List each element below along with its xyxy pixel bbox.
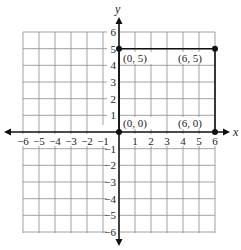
y-tick: 2 bbox=[111, 93, 117, 105]
y-axis-up-arrow-icon bbox=[116, 17, 123, 24]
point-6-5 bbox=[212, 46, 218, 52]
point-label-6-5: (6, 5) bbox=[178, 52, 202, 65]
y-tick: −2 bbox=[104, 159, 116, 171]
y-tick: 3 bbox=[111, 76, 117, 88]
point-label-0-0: (0, 0) bbox=[123, 117, 147, 130]
x-tick: −3 bbox=[65, 135, 77, 147]
y-tick: −3 bbox=[104, 176, 116, 188]
x-tick: −4 bbox=[49, 135, 61, 147]
y-axis-down-arrow-icon bbox=[116, 239, 123, 246]
x-tick: −5 bbox=[33, 135, 45, 147]
y-tick: 1 bbox=[111, 109, 117, 121]
x-axis-label: x bbox=[232, 125, 239, 139]
y-tick: 5 bbox=[111, 43, 117, 55]
point-6-0 bbox=[212, 129, 218, 135]
y-tick: −1 bbox=[104, 143, 116, 155]
y-tick: −5 bbox=[104, 209, 116, 221]
point-label-0-5: (0, 5) bbox=[123, 52, 147, 65]
x-tick: 1 bbox=[132, 135, 138, 147]
point-0-0 bbox=[116, 129, 122, 135]
point-0-5 bbox=[116, 46, 122, 52]
x-tick: 4 bbox=[180, 135, 186, 147]
x-axis-right-arrow-icon bbox=[223, 129, 230, 136]
x-axis-left-arrow-icon bbox=[4, 129, 11, 136]
x-tick: 6 bbox=[212, 135, 218, 147]
y-axis-label: y bbox=[114, 2, 121, 16]
x-tick: 2 bbox=[148, 135, 154, 147]
x-tick: 5 bbox=[196, 135, 202, 147]
coordinate-plane: x y −6 −5 −4 −3 −2 −1 1 2 3 4 5 6 6 5 4 … bbox=[0, 0, 241, 250]
y-tick: 6 bbox=[111, 26, 117, 38]
x-tick: −2 bbox=[81, 135, 93, 147]
x-tick: 3 bbox=[164, 135, 170, 147]
y-tick: −4 bbox=[104, 193, 116, 205]
y-tick: 4 bbox=[111, 59, 117, 71]
point-label-6-0: (6, 0) bbox=[178, 117, 202, 130]
y-tick: −6 bbox=[104, 226, 116, 238]
x-tick: −6 bbox=[17, 135, 29, 147]
